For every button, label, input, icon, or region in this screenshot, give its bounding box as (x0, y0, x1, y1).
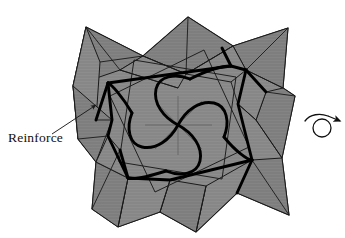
rotate-symbol-loop (313, 119, 331, 137)
folded-paper-body (73, 17, 295, 232)
origami-figure: Reinforce (0, 0, 345, 238)
reinforce-label: Reinforce (8, 130, 63, 146)
origami-illustration (0, 0, 345, 238)
rotate-model-symbol (305, 114, 340, 137)
rotate-symbol-arrow (328, 116, 340, 121)
